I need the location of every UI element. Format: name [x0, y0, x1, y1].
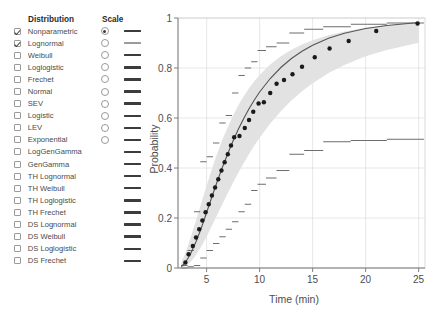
- line-style-cell[interactable]: [120, 78, 144, 80]
- checkbox-cell[interactable]: [14, 52, 28, 59]
- line-style-cell[interactable]: [120, 139, 144, 141]
- distribution-row[interactable]: TH Weibull: [14, 182, 144, 194]
- line-style-cell[interactable]: [120, 42, 144, 44]
- checkbox-cell[interactable]: [14, 173, 28, 180]
- line-style-cell[interactable]: [120, 115, 144, 117]
- distribution-checkbox[interactable]: [14, 112, 21, 119]
- line-style-cell[interactable]: [120, 163, 144, 165]
- line-style-cell[interactable]: [120, 187, 144, 189]
- distribution-row[interactable]: Weibull: [14, 49, 144, 61]
- line-style-cell[interactable]: [120, 90, 144, 92]
- checkbox-cell[interactable]: [14, 40, 28, 47]
- scale-radio-cell[interactable]: [101, 136, 121, 144]
- line-style-swatch[interactable]: [124, 151, 141, 153]
- line-style-cell[interactable]: [120, 54, 144, 56]
- line-style-swatch[interactable]: [124, 30, 141, 32]
- line-style-cell[interactable]: [120, 151, 144, 153]
- scale-radio-cell[interactable]: [101, 100, 121, 108]
- line-style-cell[interactable]: [120, 199, 144, 201]
- line-style-swatch[interactable]: [124, 102, 141, 104]
- distribution-checkbox[interactable]: [14, 221, 21, 228]
- distribution-checkbox[interactable]: [14, 245, 21, 252]
- checkbox-cell[interactable]: [14, 245, 28, 252]
- line-style-cell[interactable]: [120, 66, 144, 68]
- distribution-row[interactable]: DS Weibull: [14, 231, 144, 243]
- line-style-cell[interactable]: [120, 175, 144, 177]
- distribution-checkbox[interactable]: [14, 148, 21, 155]
- distribution-checkbox[interactable]: [14, 209, 21, 216]
- checkbox-cell[interactable]: [14, 64, 28, 71]
- line-style-swatch[interactable]: [124, 199, 141, 201]
- line-style-swatch[interactable]: [124, 127, 141, 129]
- line-style-swatch[interactable]: [124, 248, 141, 250]
- distribution-row[interactable]: Nonparametric: [14, 25, 144, 37]
- distribution-row[interactable]: TH Lognormal: [14, 170, 144, 182]
- checkbox-cell[interactable]: [14, 233, 28, 240]
- line-style-swatch[interactable]: [124, 78, 141, 80]
- checkbox-cell[interactable]: [14, 221, 28, 228]
- distribution-checkbox[interactable]: [14, 64, 21, 71]
- scale-radio-cell[interactable]: [101, 39, 121, 47]
- checkbox-cell[interactable]: [14, 76, 28, 83]
- line-style-cell[interactable]: [120, 127, 144, 129]
- line-style-cell[interactable]: [120, 248, 144, 250]
- checkbox-cell[interactable]: [14, 161, 28, 168]
- scale-radio[interactable]: [101, 51, 109, 59]
- scale-radio-cell[interactable]: [101, 63, 121, 71]
- scale-radio-cell[interactable]: [101, 27, 121, 35]
- checkbox-cell[interactable]: [14, 124, 28, 131]
- checkbox-cell[interactable]: [14, 148, 28, 155]
- distribution-row[interactable]: DS Lognormal: [14, 219, 144, 231]
- line-style-cell[interactable]: [120, 235, 144, 237]
- line-style-swatch[interactable]: [124, 235, 141, 237]
- scale-radio-cell[interactable]: [101, 51, 121, 59]
- distribution-checkbox[interactable]: [14, 173, 21, 180]
- line-style-swatch[interactable]: [124, 260, 141, 262]
- line-style-swatch[interactable]: [124, 90, 141, 92]
- scale-radio-cell[interactable]: [101, 112, 121, 120]
- line-style-swatch[interactable]: [124, 187, 141, 189]
- distribution-checkbox[interactable]: [14, 233, 21, 240]
- distribution-checkbox[interactable]: [14, 185, 21, 192]
- scale-radio[interactable]: [101, 100, 109, 108]
- line-style-cell[interactable]: [120, 260, 144, 262]
- line-style-swatch[interactable]: [124, 139, 141, 141]
- distribution-checkbox[interactable]: [14, 197, 21, 204]
- distribution-checkbox[interactable]: [14, 76, 21, 83]
- distribution-row[interactable]: TH Loglogistic: [14, 194, 144, 206]
- distribution-row[interactable]: Logistic: [14, 110, 144, 122]
- checkbox-cell[interactable]: [14, 257, 28, 264]
- distribution-row[interactable]: DS Frechet: [14, 255, 144, 267]
- distribution-checkbox[interactable]: [14, 88, 21, 95]
- distribution-checkbox[interactable]: [14, 100, 21, 107]
- checkbox-cell[interactable]: [14, 209, 28, 216]
- line-style-cell[interactable]: [120, 223, 144, 225]
- checkbox-cell[interactable]: [14, 88, 28, 95]
- scale-radio[interactable]: [101, 75, 109, 83]
- distribution-checkbox[interactable]: [14, 161, 21, 168]
- distribution-row[interactable]: Frechet: [14, 73, 144, 85]
- line-style-swatch[interactable]: [124, 66, 141, 68]
- scale-radio-cell[interactable]: [101, 124, 121, 132]
- distribution-row[interactable]: Loglogistic: [14, 61, 144, 73]
- distribution-checkbox[interactable]: [14, 124, 21, 131]
- checkbox-cell[interactable]: [14, 197, 28, 204]
- scale-radio[interactable]: [101, 27, 109, 35]
- distribution-row[interactable]: Lognormal: [14, 37, 144, 49]
- distribution-row[interactable]: LEV: [14, 122, 144, 134]
- checkbox-cell[interactable]: [14, 136, 28, 143]
- line-style-swatch[interactable]: [124, 175, 141, 177]
- distribution-row[interactable]: Normal: [14, 85, 144, 97]
- distribution-row[interactable]: SEV: [14, 98, 144, 110]
- distribution-checkbox[interactable]: [14, 136, 21, 143]
- distribution-row[interactable]: GenGamma: [14, 158, 144, 170]
- scale-radio[interactable]: [101, 136, 109, 144]
- distribution-checkbox[interactable]: [14, 28, 21, 35]
- scale-radio[interactable]: [101, 124, 109, 132]
- checkbox-cell[interactable]: [14, 100, 28, 107]
- line-style-swatch[interactable]: [124, 223, 141, 225]
- distribution-checkbox[interactable]: [14, 257, 21, 264]
- scale-radio-cell[interactable]: [101, 88, 121, 96]
- scale-radio-cell[interactable]: [101, 75, 121, 83]
- scale-radio[interactable]: [101, 88, 109, 96]
